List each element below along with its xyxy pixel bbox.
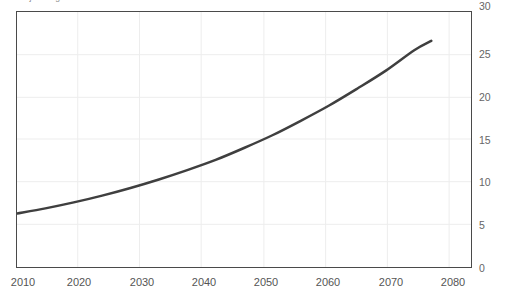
chart-figure: Projected growth 0 5 10 bbox=[0, 0, 505, 293]
y-tick-label: 0 bbox=[479, 263, 485, 274]
chart-title-text: Projected growth bbox=[16, 0, 81, 2]
x-tick-label: 2030 bbox=[130, 276, 154, 288]
x-tick-label: 2060 bbox=[316, 276, 340, 288]
x-tick-label: 2080 bbox=[441, 276, 465, 288]
x-tick-label: 2010 bbox=[11, 276, 35, 288]
x-tick-label: 2050 bbox=[254, 276, 278, 288]
x-tick-label: 2070 bbox=[379, 276, 403, 288]
chart-canvas bbox=[17, 12, 471, 267]
x-tick-label: 2040 bbox=[192, 276, 216, 288]
y-tick-label: 15 bbox=[479, 135, 491, 146]
y-tick-label-top-clipped: 30 bbox=[479, 1, 491, 12]
x-tick-label: 2020 bbox=[67, 276, 91, 288]
data-line-series-1 bbox=[17, 41, 431, 214]
plot-area bbox=[16, 11, 472, 268]
y-tick-label: 20 bbox=[479, 92, 491, 103]
y-tick-label: 5 bbox=[479, 220, 485, 231]
y-tick-label: 25 bbox=[479, 49, 491, 60]
y-tick-label: 10 bbox=[479, 177, 491, 188]
chart-title-clipped: Projected growth bbox=[16, 0, 416, 8]
